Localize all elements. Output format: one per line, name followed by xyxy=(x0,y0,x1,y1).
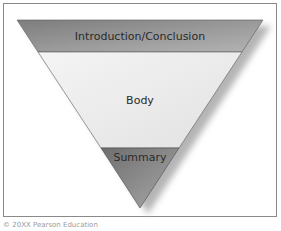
summary-label: Summary xyxy=(100,151,180,164)
body-label: Body xyxy=(90,94,190,107)
copyright-caption: © 20XX Pearson Education xyxy=(3,221,98,229)
intro-label: Introduction/Conclusion xyxy=(40,30,240,43)
